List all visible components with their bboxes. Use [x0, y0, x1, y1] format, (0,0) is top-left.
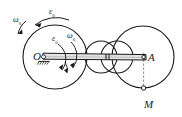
figure-canvas: O A M ω0 ε0 ε0 ω0: [0, 0, 182, 117]
label-pivot-O: O: [33, 51, 41, 62]
label-epsilon-inner: ε0: [52, 35, 58, 46]
inner-arrow-extra: [64, 62, 68, 73]
point-M-marker: [141, 86, 145, 90]
point-A-marker: [142, 55, 145, 58]
label-omega-inner: ω0: [67, 32, 75, 43]
label-epsilon-outer: ε0: [49, 8, 55, 19]
label-point-A: A: [148, 52, 155, 63]
epsilon-outer-subscript: 0: [52, 13, 54, 18]
epsilon-inner-subscript: 0: [55, 40, 57, 45]
label-omega-outer: ω0: [13, 16, 21, 27]
omega-outer-subscript: 0: [19, 21, 21, 26]
omega-inner-subscript: 0: [73, 37, 75, 42]
label-point-M: M: [144, 99, 153, 110]
